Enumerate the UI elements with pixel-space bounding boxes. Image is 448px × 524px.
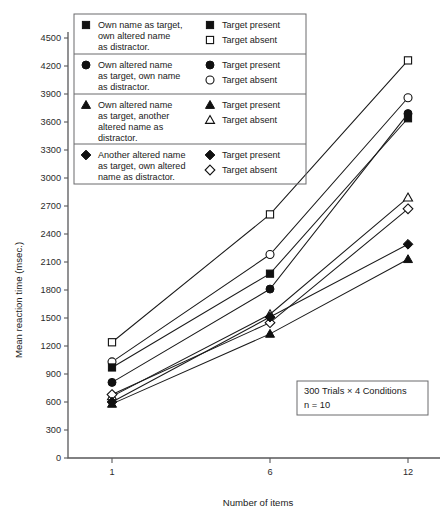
datapoint-square-open [266, 211, 273, 218]
legend-condition-text: Own altered name [98, 100, 172, 110]
y-tick-label: 2100 [41, 257, 61, 267]
y-tick-label: 4200 [41, 61, 61, 71]
y-tick-label: 1200 [41, 341, 61, 351]
legend-entry-marker [206, 76, 214, 84]
legend-condition-text: as target, own name [98, 71, 180, 81]
y-tick-label: 1500 [41, 313, 61, 323]
legend-condition-text: as target, own altered [98, 161, 185, 171]
x-tick-label: 6 [267, 467, 272, 477]
y-tick-label: 2700 [41, 201, 61, 211]
legend-condition-text: as distractor. [98, 42, 150, 52]
datapoint-square-filled [108, 364, 115, 371]
legend-condition-text: Own name as target, [98, 20, 182, 30]
x-tick-label: 1 [109, 467, 114, 477]
legend-condition-text: Another altered name [98, 150, 185, 160]
legend-entry-label: Target absent [222, 75, 278, 85]
y-axis-title: Mean reaction time (msec.) [13, 242, 24, 358]
x-tick-label: 12 [403, 467, 413, 477]
chart-figure: 0300600900120015001800210024002700300033… [0, 0, 448, 524]
legend-entry-label: Target absent [222, 165, 278, 175]
legend-entry-label: Target present [222, 20, 281, 30]
legend-entry-marker [206, 36, 213, 43]
y-tick-label: 1800 [41, 285, 61, 295]
y-tick-label: 2400 [41, 229, 61, 239]
legend-condition-text: altered name as [98, 122, 164, 132]
x-axis-title: Number of items [223, 497, 294, 508]
legend-condition-text: as target, another [98, 111, 169, 121]
legend-entry-label: Target absent [222, 35, 278, 45]
reaction-time-line-chart: 0300600900120015001800210024002700300033… [0, 0, 448, 524]
legend-condition-marker [82, 21, 89, 28]
y-tick-label: 600 [46, 397, 61, 407]
datapoint-square-open [108, 339, 115, 346]
legend-entry-label: Target present [222, 150, 281, 160]
legend-condition-text: own altered name [98, 31, 170, 41]
legend-entry-label: Target absent [222, 115, 278, 125]
annotation-line-1: 300 Trials × 4 Conditions [304, 386, 407, 396]
datapoint-square-open [404, 57, 411, 64]
legend-condition-marker [82, 61, 90, 69]
datapoint-circle-open [266, 251, 274, 259]
datapoint-circle-filled [266, 285, 274, 293]
y-tick-label: 900 [46, 369, 61, 379]
y-tick-label: 4500 [41, 33, 61, 43]
datapoint-circle-open [404, 94, 412, 102]
legend-condition-text: distractor. [98, 133, 137, 143]
legend-entry-label: Target present [222, 60, 281, 70]
legend-condition-text: Own altered name [98, 60, 172, 70]
annotation-line-2: n = 10 [304, 400, 330, 410]
legend-condition-text: name as distractor. [98, 172, 175, 182]
y-tick-label: 300 [46, 425, 61, 435]
legend-entry-marker [206, 61, 214, 69]
y-tick-label: 3300 [41, 145, 61, 155]
y-tick-label: 3900 [41, 89, 61, 99]
legend-condition-text: as distractor. [98, 82, 150, 92]
legend-entry-label: Target present [222, 100, 281, 110]
y-tick-label: 3000 [41, 173, 61, 183]
datapoint-square-filled [266, 270, 273, 277]
datapoint-circle-filled [404, 110, 412, 118]
y-tick-label: 3600 [41, 117, 61, 127]
legend-entry-marker [206, 21, 213, 28]
datapoint-circle-filled [108, 378, 116, 386]
y-tick-label: 0 [56, 453, 61, 463]
